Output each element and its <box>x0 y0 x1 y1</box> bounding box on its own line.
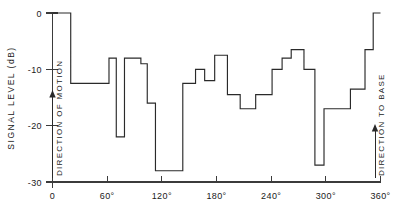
x-tick-label-180: 180° <box>206 191 226 201</box>
annotation-direction-to-base: DIRECTION TO BASE <box>372 73 386 178</box>
y-axis-title: SIGNAL LEVEL (dB) <box>6 46 16 149</box>
y-tick-label-0: 0 <box>37 9 42 19</box>
direction-to-base-label: DIRECTION TO BASE <box>377 73 386 176</box>
x-axis-tick-labels: 0 60° 120° 180° 240° 300° 360° <box>50 191 391 201</box>
chart-axes <box>53 13 382 182</box>
x-tick-label-120: 120° <box>152 191 172 201</box>
x-tick-label-300: 300° <box>316 191 336 201</box>
y-axis-tick-labels: 0 -10 -20 -30 <box>28 9 42 188</box>
x-tick-label-360: 360° <box>370 191 390 201</box>
x-tick-label-0: 0 <box>50 191 55 201</box>
annotation-direction-of-motion: DIRECTION OF MOTION <box>49 60 64 178</box>
x-tick-label-240: 240° <box>261 191 281 201</box>
y-tick-label-minus20: -20 <box>28 121 42 131</box>
y-tick-label-minus10: -10 <box>28 65 42 75</box>
direction-of-motion-label: DIRECTION OF MOTION <box>55 60 64 176</box>
y-tick-label-minus30: -30 <box>28 178 42 188</box>
chart-figure: 0 -10 -20 -30 0 60° 120° 180° 240° 300° … <box>0 0 405 204</box>
signal-level-trace <box>53 13 381 171</box>
signal-level-step-chart: 0 -10 -20 -30 0 60° 120° 180° 240° 300° … <box>0 0 405 204</box>
x-tick-label-60: 60° <box>100 191 115 201</box>
